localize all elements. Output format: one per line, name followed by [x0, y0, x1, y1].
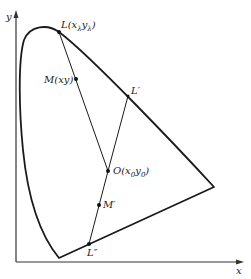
label-M: M(xy)	[44, 75, 73, 85]
label-O: O(x0y0)	[113, 166, 149, 179]
label-L-end: )	[92, 19, 96, 30]
point-O	[106, 169, 110, 173]
y-axis-label: y	[6, 12, 12, 22]
line-Lprime-to-O	[108, 96, 128, 171]
x-axis-label: x	[236, 266, 242, 276]
label-O-end: )	[145, 165, 149, 176]
label-L-text: L(x	[61, 19, 77, 30]
x-axis-arrow-icon	[236, 260, 244, 265]
label-M-prime: M′	[103, 200, 116, 210]
spectral-locus-curve	[20, 27, 214, 258]
chromaticity-diagram	[0, 0, 251, 279]
point-M-prime	[97, 203, 101, 207]
point-M	[74, 77, 78, 81]
label-O-text: O(x	[113, 165, 131, 176]
label-L-double-prime: L″	[87, 248, 97, 258]
point-L-prime	[127, 95, 130, 98]
label-L-prime: L′	[131, 86, 140, 96]
y-axis-arrow-icon	[14, 10, 19, 18]
label-L: L(xλyλ)	[61, 20, 96, 33]
axes	[16, 14, 240, 262]
point-L-double-prime	[87, 242, 91, 246]
